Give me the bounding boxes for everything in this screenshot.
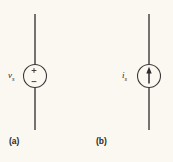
voltage-source-label: vs	[8, 70, 15, 82]
voltage-source-group	[24, 14, 47, 130]
voltage-source-label-sub: s	[12, 75, 15, 82]
voltage-source-circle	[24, 65, 47, 88]
circuit-figure: vs is (a) (b)	[0, 0, 173, 162]
current-source-label: is	[122, 70, 127, 82]
arrow-up-icon	[146, 67, 151, 84]
panel-caption-a: (a)	[9, 136, 19, 146]
panel-caption-b: (b)	[96, 136, 107, 146]
current-source-label-sub: s	[125, 75, 128, 82]
current-source-group	[138, 14, 161, 130]
circuit-diagram-canvas	[0, 0, 173, 162]
plus-sign-icon	[32, 68, 37, 73]
